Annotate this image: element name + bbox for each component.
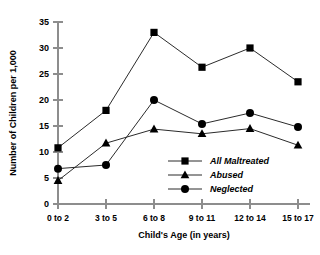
square-marker-icon <box>54 144 61 151</box>
y-tick-label: 20 <box>39 95 49 105</box>
square-marker-icon <box>294 78 301 85</box>
circle-marker-icon <box>102 161 110 169</box>
triangle-marker-icon <box>181 170 190 178</box>
square-marker-icon <box>181 157 188 164</box>
x-axis-title: Child's Age (in years) <box>138 230 229 240</box>
y-tick-label: 10 <box>39 147 49 157</box>
series-line-abused <box>58 129 298 181</box>
legend-item-neglected: Neglected <box>168 184 254 194</box>
y-tick-label: 25 <box>39 69 49 79</box>
x-tick-label: 9 to 11 <box>189 213 216 223</box>
x-tick-label: 0 to 2 <box>47 213 69 223</box>
chart-legend: All MaltreatedAbusedNeglected <box>168 156 270 194</box>
circle-marker-icon <box>294 123 302 131</box>
legend-label: Abused <box>209 170 244 180</box>
y-tick-label: 30 <box>39 43 49 53</box>
line-chart: 05101520253035 0 to 23 to 56 to 89 to 11… <box>0 0 320 255</box>
series-line-all-maltreated <box>58 32 298 147</box>
x-tick-label: 12 to 14 <box>234 213 266 223</box>
y-tick-label: 5 <box>44 173 49 183</box>
triangle-marker-icon <box>54 176 63 184</box>
y-tick-label: 35 <box>39 17 49 27</box>
legend-label: Neglected <box>210 184 254 194</box>
square-marker-icon <box>150 29 157 36</box>
y-tick-label: 0 <box>44 199 49 209</box>
circle-marker-icon <box>150 96 158 104</box>
x-axis-tick-labels: 0 to 23 to 56 to 89 to 1112 to 1415 to 1… <box>47 213 314 223</box>
circle-marker-icon <box>181 185 189 193</box>
y-axis-title: Number of Children per 1,000 <box>8 50 18 176</box>
circle-marker-icon <box>246 109 254 117</box>
legend-label: All Maltreated <box>209 156 270 166</box>
circle-marker-icon <box>54 165 62 173</box>
y-axis-tick-labels: 05101520253035 <box>39 17 49 209</box>
square-marker-icon <box>246 44 253 51</box>
chart-canvas: 05101520253035 0 to 23 to 56 to 89 to 11… <box>0 0 320 255</box>
square-marker-icon <box>198 64 205 71</box>
legend-item-all-maltreated: All Maltreated <box>168 156 270 166</box>
x-tick-label: 15 to 17 <box>282 213 314 223</box>
triangle-marker-icon <box>246 124 255 132</box>
x-tick-label: 3 to 5 <box>95 213 117 223</box>
square-marker-icon <box>102 107 109 114</box>
triangle-marker-icon <box>150 125 159 133</box>
legend-item-abused: Abused <box>168 170 244 180</box>
circle-marker-icon <box>198 120 206 128</box>
x-tick-label: 6 to 8 <box>143 213 165 223</box>
y-tick-label: 15 <box>39 121 49 131</box>
